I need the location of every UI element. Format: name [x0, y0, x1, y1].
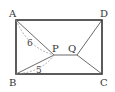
segment-ap	[16, 20, 54, 55]
label-a: A	[8, 8, 17, 19]
segment-bp	[16, 55, 54, 74]
label-c: C	[100, 77, 108, 88]
segment-qd	[77, 20, 102, 55]
label-d: D	[100, 8, 108, 19]
label-p: P	[52, 43, 59, 54]
measure-label-ap: 6	[27, 38, 33, 48]
label-b: B	[9, 77, 16, 88]
measure-label-bp: 5	[36, 65, 42, 75]
label-q: Q	[68, 43, 76, 54]
segment-qc	[77, 55, 102, 74]
geometry-figure: A D B C P Q 6 5	[0, 0, 115, 92]
